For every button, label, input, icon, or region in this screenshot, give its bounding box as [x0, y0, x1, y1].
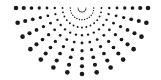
dot: [56, 19, 58, 21]
dot: [59, 34, 62, 37]
dot: [108, 7, 110, 9]
dot: [105, 58, 109, 62]
dot: [84, 19, 85, 20]
dot: [83, 11, 84, 12]
dot: [62, 7, 64, 9]
dot: [22, 6, 26, 10]
dot: [144, 20, 149, 25]
dot: [131, 47, 136, 52]
dot: [81, 42, 84, 45]
dot: [119, 25, 122, 28]
dot: [77, 26, 79, 28]
dot: [102, 52, 106, 56]
dot: [85, 8, 86, 9]
dot: [66, 19, 68, 21]
dot: [74, 16, 75, 17]
dot: [47, 33, 50, 36]
dot: [100, 11, 102, 13]
dot: [98, 28, 100, 30]
dot: [125, 42, 129, 46]
dot: [96, 19, 98, 21]
dot: [93, 22, 95, 24]
dot: [67, 63, 71, 67]
dot: [14, 6, 19, 11]
dot: [78, 8, 79, 9]
dot: [46, 7, 49, 10]
dot: [91, 55, 95, 59]
dot: [70, 7, 71, 8]
dot: [49, 46, 53, 50]
dot: [34, 42, 38, 46]
sunburst-dots: [14, 6, 151, 77]
dot: [70, 10, 71, 11]
dot: [108, 28, 111, 31]
dot: [86, 18, 87, 19]
dot: [78, 8, 79, 9]
dot: [65, 70, 70, 75]
dot: [107, 13, 109, 15]
dot: [116, 7, 119, 10]
dot: [94, 70, 99, 75]
dot: [30, 6, 34, 10]
dot: [23, 19, 27, 23]
dot: [54, 40, 57, 43]
dot: [116, 51, 120, 55]
dot: [80, 57, 84, 61]
dot: [73, 25, 75, 27]
dot: [96, 38, 99, 41]
dot: [92, 12, 93, 13]
dot: [108, 65, 113, 70]
dot: [41, 38, 45, 42]
dot: [46, 14, 49, 17]
dot: [102, 34, 105, 37]
dot: [58, 52, 62, 56]
dot: [138, 6, 142, 10]
dot: [76, 18, 77, 19]
dot: [101, 7, 103, 9]
dot: [54, 7, 56, 9]
dot: [93, 7, 94, 8]
dot: [20, 34, 25, 39]
dot: [90, 48, 93, 51]
dot: [78, 9, 79, 10]
dot: [129, 17, 133, 21]
dot: [121, 57, 126, 62]
dot: [49, 22, 52, 25]
dot: [122, 16, 125, 19]
dot: [72, 15, 73, 16]
dot: [107, 40, 110, 43]
dot: [79, 19, 80, 20]
dot: [64, 28, 66, 30]
dot: [65, 38, 68, 41]
dot: [71, 12, 72, 13]
dot: [51, 65, 56, 70]
dot: [81, 27, 83, 29]
dot: [75, 33, 77, 35]
dot: [93, 31, 95, 33]
dot: [102, 24, 104, 26]
dot: [15, 20, 20, 25]
dot: [35, 28, 39, 32]
dot: [137, 19, 141, 23]
dot: [126, 28, 130, 32]
dot: [93, 63, 97, 67]
dot: [115, 14, 118, 17]
dot: [112, 22, 115, 25]
dot: [82, 12, 83, 13]
dot: [90, 15, 91, 16]
dot: [63, 16, 65, 18]
dot: [81, 11, 82, 12]
dot: [132, 31, 136, 35]
dot: [39, 57, 44, 62]
dot: [85, 26, 87, 28]
dot: [86, 8, 87, 9]
dot: [27, 31, 31, 35]
dot: [89, 16, 90, 17]
dot: [69, 55, 73, 59]
dot: [87, 33, 89, 35]
dot: [71, 48, 74, 51]
dot: [60, 24, 62, 26]
dot: [88, 41, 91, 44]
dot: [105, 19, 107, 21]
dot: [81, 19, 82, 20]
